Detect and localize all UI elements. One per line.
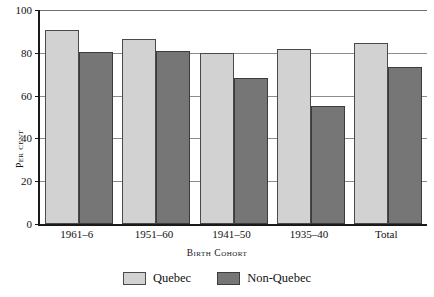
bar-quebec-4[interactable]: [354, 43, 388, 224]
plot-area: [38, 10, 427, 226]
bar-non-quebec-0[interactable]: [79, 52, 113, 224]
x-tick-label-0: 1961–6: [60, 228, 93, 240]
bar-non-quebec-4[interactable]: [388, 67, 422, 224]
y-tick-label-40: 40: [2, 132, 32, 144]
y-tick-mark-60: [35, 96, 40, 97]
y-tick-label-20: 20: [2, 175, 32, 187]
legend: Quebec Non-Quebec: [0, 271, 434, 286]
y-tick-label-60: 60: [2, 90, 32, 102]
legend-swatch-non-quebec: [217, 272, 240, 285]
bar-quebec-3[interactable]: [277, 49, 311, 224]
y-tick-mark-20: [35, 181, 40, 182]
bar-quebec-0[interactable]: [45, 30, 79, 224]
bar-quebec-2[interactable]: [200, 53, 234, 224]
y-tick-mark-80: [35, 53, 40, 54]
y-tick-label-0: 0: [2, 218, 32, 230]
x-tick-label-4: Total: [375, 228, 397, 240]
y-tick-label-80: 80: [2, 47, 32, 59]
legend-item-non-quebec[interactable]: Non-Quebec: [217, 271, 311, 286]
y-tick-mark-40: [35, 138, 40, 139]
x-tick-label-1: 1951–60: [135, 228, 174, 240]
bar-non-quebec-3[interactable]: [311, 106, 345, 224]
x-axis-title: Birth Cohort: [0, 248, 434, 258]
y-tick-mark-100: [35, 10, 40, 11]
legend-label-non-quebec: Non-Quebec: [247, 271, 311, 286]
y-tick-label-100: 100: [2, 4, 32, 16]
x-tick-label-2: 1941–50: [212, 228, 251, 240]
bar-quebec-1[interactable]: [122, 39, 156, 224]
bar-series-container: [40, 10, 427, 224]
legend-label-quebec: Quebec: [153, 271, 191, 286]
x-tick-label-3: 1935–40: [290, 228, 329, 240]
bar-non-quebec-1[interactable]: [156, 51, 190, 224]
y-tick-mark-0: [35, 224, 40, 225]
chart-figure: Per cent Birth Cohort Quebec Non-Quebec …: [0, 0, 434, 297]
bar-non-quebec-2[interactable]: [234, 78, 268, 224]
legend-swatch-quebec: [123, 272, 146, 285]
legend-item-quebec[interactable]: Quebec: [123, 271, 191, 286]
